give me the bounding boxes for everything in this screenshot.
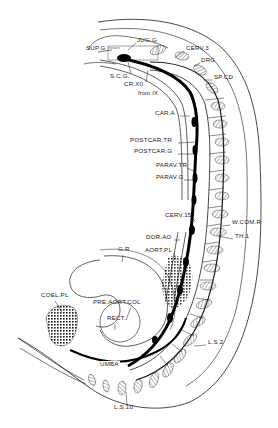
label-cranial-nerve-xii: CR.XII <box>124 81 143 87</box>
label-umbilical-artery: UMBA <box>99 361 120 367</box>
leader-lines <box>55 43 233 405</box>
ventral-body-outline <box>100 28 247 386</box>
label-dorsal-aorta: DOR.AO <box>146 234 172 240</box>
label-coelomic-plexus: COEL.PL <box>41 292 69 298</box>
label-aortic-plexus: AORT.PL <box>145 247 172 253</box>
label-postcarotid-ganglion: POSTCAR.G <box>134 148 172 154</box>
aortic-plexus <box>162 256 192 309</box>
label-dorsal-root-ganglion: DRG <box>201 57 215 63</box>
label-carotid-artery: CAR.A <box>155 110 175 116</box>
label-superior-ganglion: SUP.G <box>86 45 105 51</box>
label-preaortic-column: PRE.AORT.COL <box>93 299 141 305</box>
label-lumbosacral-2: L.S.2 <box>208 339 223 345</box>
label-paravertebral-trunk: PARAV.TR <box>156 162 187 168</box>
label-from-ix: from IX <box>138 91 158 97</box>
tail-outline <box>18 338 86 384</box>
label-cervical-3: CERV.3 <box>186 45 209 51</box>
label-white-communicating-ramus: W.COM.R <box>232 219 261 225</box>
label-spinal-cord: SP.CD <box>214 74 233 80</box>
label-postcarotid-trunk: POSTCAR.TR <box>130 137 172 143</box>
label-genital-ridge: G.R <box>118 246 130 252</box>
label-jugular-ganglion: JUG.G <box>137 37 157 43</box>
label-superior-cervical-ganglion: S.C.G. <box>110 73 130 79</box>
anatomical-figure: JUG.G SUP.G CERV.3 DRG S.C.G. SP.CD CR.X… <box>0 0 278 428</box>
label-thoracic-1: TH.1 <box>235 233 249 239</box>
label-rectum: RECT. <box>107 315 126 321</box>
label-lumbosacral-10: L.S.10 <box>114 404 133 410</box>
label-cervical-15: CERV.15 <box>165 212 192 218</box>
label-paravertebral-ganglion: PARAV.G <box>156 174 183 180</box>
embryo-line-drawing <box>0 0 278 428</box>
